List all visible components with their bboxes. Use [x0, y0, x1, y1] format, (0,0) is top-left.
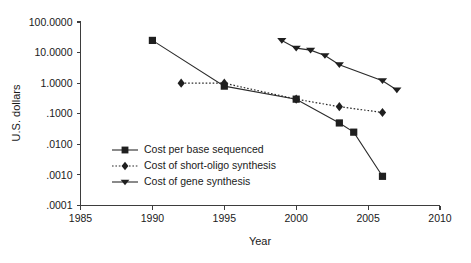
y-tick-label-6: .0001 — [46, 199, 72, 211]
y-tick-label-4: .0100 — [46, 138, 72, 150]
x-tick-label-3: 2000 — [285, 212, 309, 224]
y-tick-label-5: .0010 — [46, 169, 72, 181]
y-tick-label-3: .1000 — [46, 107, 72, 119]
x-tick-label-1: 1990 — [141, 212, 165, 224]
cost-trends-line-chart: 100.000010.00001.0000.1000.0100.0010.000… — [0, 0, 471, 263]
data-point — [149, 37, 156, 44]
data-point — [336, 119, 343, 126]
legend-label-0: Cost per base sequenced — [144, 143, 264, 155]
y-tick-label-0: 100.0000 — [29, 16, 73, 28]
y-tick-label-1: 10.0000 — [35, 46, 73, 58]
x-tick-label-5: 2010 — [428, 212, 452, 224]
y-axis-title: U.S. dollars — [10, 84, 22, 141]
x-tick-label-0: 1985 — [69, 212, 93, 224]
y-tick-label-2: 1.0000 — [40, 77, 72, 89]
x-tick-label-2: 1995 — [213, 212, 237, 224]
data-point — [350, 129, 357, 136]
chart-figure: 100.000010.00001.0000.1000.0100.0010.000… — [0, 0, 471, 263]
chart-background — [0, 0, 471, 263]
legend-label-1: Cost of short-oligo synthesis — [144, 159, 276, 171]
data-point — [379, 173, 386, 180]
legend-marker-square-icon — [122, 147, 129, 154]
x-tick-label-4: 2005 — [356, 212, 380, 224]
legend-label-2: Cost of gene synthesis — [144, 175, 250, 187]
x-axis-title: Year — [249, 235, 272, 247]
